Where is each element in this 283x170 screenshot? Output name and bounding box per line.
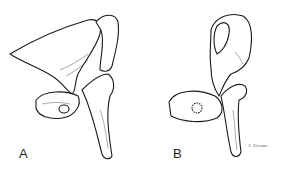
incus-illustration-a	[0, 0, 141, 170]
panel-label-a: A	[19, 146, 28, 161]
panel-label-b: B	[173, 146, 182, 161]
artist-signature: J. Coster	[248, 143, 268, 148]
panel-b: B J. Coster	[141, 0, 283, 170]
panel-a: A	[0, 0, 141, 170]
